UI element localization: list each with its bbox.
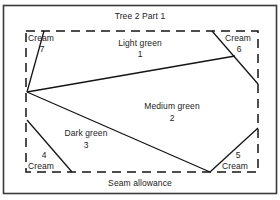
seam-line-upper-long-diagonal — [27, 56, 235, 92]
region-5-label: Cream — [222, 161, 248, 171]
region-2-number: 2 — [170, 113, 175, 123]
region-7-label: Cream — [28, 33, 54, 43]
page-title: Tree 2 Part 1 — [115, 11, 166, 21]
region-3-label: Dark green — [64, 128, 107, 138]
region-2-label: Medium green — [144, 101, 200, 111]
region-1-label: Light green — [118, 38, 162, 48]
region-4-number: 4 — [42, 150, 47, 160]
region-4-label: Cream — [28, 161, 54, 171]
seam-allowance-label: Seam allowance — [108, 178, 172, 188]
region-3-number: 3 — [84, 140, 89, 150]
region-7-number: 7 — [40, 44, 45, 54]
region-1-number: 1 — [138, 49, 143, 59]
region-6-number: 6 — [237, 44, 242, 54]
foundation-piecing-pattern: Tree 2 Part 1 Seam allowance Cream 7 Lig… — [0, 0, 280, 200]
region-5-number: 5 — [236, 150, 241, 160]
region-6-label: Cream — [225, 33, 251, 43]
